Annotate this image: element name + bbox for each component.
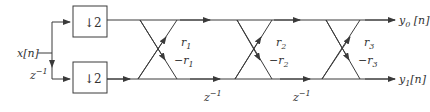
output-label-y0: y0 [n] bbox=[398, 14, 430, 29]
input-delay-label: z−1 bbox=[29, 67, 48, 82]
stage3-upper-coef: r3 bbox=[364, 36, 374, 51]
stage3-lower-coef: −r3 bbox=[358, 54, 378, 69]
stage1-upper-coef: r1 bbox=[181, 36, 191, 51]
delayed-to-bottom-downsampler bbox=[52, 67, 70, 79]
lattice-stage-1 bbox=[138, 20, 177, 79]
lattice-diagram: x[n] z−1 ↓2 ↓2 r1 −r1 r2 −r2 r3 −r3 z−1 … bbox=[0, 0, 430, 112]
lattice-stage-3 bbox=[322, 20, 360, 79]
downsampler-label-top: ↓2 bbox=[84, 16, 102, 30]
stage2-lower-coef: −r2 bbox=[269, 54, 289, 69]
stage2-upper-coef: r2 bbox=[276, 36, 286, 51]
input-label: x[n] bbox=[17, 47, 40, 60]
delay-label-1: z−1 bbox=[203, 89, 222, 104]
stage1-lower-coef: −r1 bbox=[174, 54, 194, 69]
input-to-top-downsampler bbox=[52, 22, 70, 53]
downsampler-label-bottom: ↓2 bbox=[84, 72, 102, 86]
delay-label-2: z−1 bbox=[292, 89, 311, 104]
lattice-stage-2 bbox=[235, 20, 272, 79]
output-label-y1: y1[n] bbox=[398, 73, 427, 88]
